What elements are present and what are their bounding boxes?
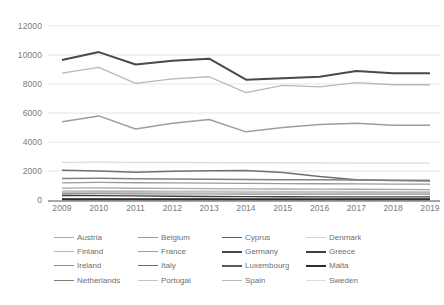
legend-item-belgium[interactable]: Belgium [138, 233, 222, 242]
legend-label: Belgium [161, 233, 190, 242]
legend-swatch-finland-icon [54, 251, 74, 252]
x-tick-2018: 2018 [384, 203, 403, 213]
legend-item-greece[interactable]: Greece [306, 247, 390, 256]
legend-label: Austria [77, 233, 102, 242]
series-line-france [62, 116, 430, 132]
legend-label: Netherlands [77, 276, 120, 285]
x-tick-2009: 2009 [52, 203, 71, 213]
legend-item-finland[interactable]: Finland [54, 247, 138, 256]
legend-item-netherlands[interactable]: Netherlands [54, 276, 138, 285]
x-axis-tick-labels: 2009201020112012201320142015201620172018… [48, 203, 440, 223]
y-tick-6000: 6000 [23, 108, 42, 118]
legend-label: Greece [329, 247, 355, 256]
legend-label: Finland [77, 247, 103, 256]
x-tick-2012: 2012 [163, 203, 182, 213]
legend-item-austria[interactable]: Austria [54, 233, 138, 242]
legend-label: Ireland [77, 261, 101, 270]
legend-item-italy[interactable]: Italy [138, 261, 222, 270]
legend-label: Spain [245, 276, 265, 285]
legend-label: Malta [329, 261, 349, 270]
legend-item-spain[interactable]: Spain [222, 276, 306, 285]
series-line-belgium [62, 182, 430, 184]
legend-item-germany[interactable]: Germany [222, 247, 306, 256]
y-tick-10000: 10000 [18, 50, 42, 60]
legend-swatch-france-icon [138, 251, 158, 252]
y-tick-2000: 2000 [23, 166, 42, 176]
x-tick-2014: 2014 [236, 203, 255, 213]
legend-label: Luxembourg [245, 261, 289, 270]
legend-swatch-denmark-icon [306, 237, 326, 238]
y-tick-4000: 4000 [23, 137, 42, 147]
chart-grid [48, 0, 440, 225]
series-line-netherlands [62, 178, 430, 180]
series-lines-svg [48, 0, 440, 225]
legend-item-sweden[interactable]: Sweden [306, 276, 390, 285]
x-tick-2010: 2010 [89, 203, 108, 213]
legend-row-3: IrelandItalyLuxembourgMalta [54, 259, 390, 273]
legend-swatch-netherlands-icon [54, 280, 74, 281]
x-tick-2013: 2013 [200, 203, 219, 213]
x-tick-2017: 2017 [347, 203, 366, 213]
legend-label: Cyprus [245, 233, 270, 242]
legend-label: Italy [161, 261, 176, 270]
legend-swatch-portugal-icon [138, 280, 158, 281]
series-line-greece [62, 196, 430, 197]
y-axis-tick-labels: 120001000080006000400020000 [0, 0, 46, 225]
legend-item-malta[interactable]: Malta [306, 261, 390, 270]
y-tick-8000: 8000 [23, 79, 42, 89]
legend-swatch-belgium-icon [138, 237, 158, 238]
legend-label: Portugal [161, 276, 191, 285]
legend-swatch-ireland-icon [54, 265, 74, 266]
legend-swatch-luxembourg-icon [222, 265, 242, 267]
legend-swatch-germany-icon [222, 251, 242, 253]
legend-item-portugal[interactable]: Portugal [138, 276, 222, 285]
legend-swatch-cyprus-icon [222, 237, 242, 238]
y-tick-0: 0 [37, 195, 42, 205]
y-tick-12000: 12000 [18, 21, 42, 31]
x-tick-2019: 2019 [420, 203, 439, 213]
x-tick-2011: 2011 [126, 203, 145, 213]
legend-swatch-sweden-icon [306, 280, 326, 281]
legend-label: Denmark [329, 233, 361, 242]
legend-item-cyprus[interactable]: Cyprus [222, 233, 306, 242]
legend-swatch-austria-icon [54, 237, 74, 238]
line-chart: 120001000080006000400020000 200920102011… [0, 0, 444, 305]
legend-swatch-malta-icon [306, 265, 326, 267]
legend-label: France [161, 247, 186, 256]
series-line-sweden [62, 162, 430, 163]
legend-swatch-italy-icon [138, 265, 158, 266]
plot-area: 120001000080006000400020000 200920102011… [0, 0, 444, 225]
legend-label: Sweden [329, 276, 358, 285]
legend-label: Germany [245, 247, 278, 256]
legend-row-4: NetherlandsPortugalSpainSweden [54, 273, 390, 287]
legend-swatch-spain-icon [222, 280, 242, 281]
legend-swatch-greece-icon [306, 251, 326, 253]
x-tick-2015: 2015 [273, 203, 292, 213]
legend-item-france[interactable]: France [138, 247, 222, 256]
chart-legend: AustriaBelgiumCyprusDenmarkFinlandFrance… [0, 228, 444, 305]
legend-row-1: AustriaBelgiumCyprusDenmark [54, 230, 390, 244]
legend-item-luxembourg[interactable]: Luxembourg [222, 261, 306, 270]
legend-item-denmark[interactable]: Denmark [306, 233, 390, 242]
legend-item-ireland[interactable]: Ireland [54, 261, 138, 270]
series-line-austria [62, 188, 430, 190]
x-tick-2016: 2016 [310, 203, 329, 213]
legend-row-2: FinlandFranceGermanyGreece [54, 244, 390, 258]
